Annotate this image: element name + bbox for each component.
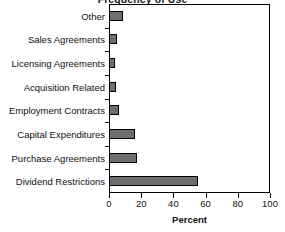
x-axis-tick-label: 40 <box>168 198 179 209</box>
bar <box>109 153 270 163</box>
y-axis-label: Employment Contracts <box>0 105 105 116</box>
bar-series <box>109 4 270 193</box>
bar-fill <box>109 34 117 44</box>
chart-figure: Frequency of Use OtherSales AgreementsLi… <box>0 0 285 232</box>
x-axis-tick-label: 60 <box>200 198 211 209</box>
y-axis-label: Dividend Restrictions <box>0 176 105 187</box>
y-axis-label: Capital Expenditures <box>0 128 105 139</box>
x-axis-tick-labels: 020406080100 <box>109 198 270 212</box>
x-axis-tick-label: 20 <box>136 198 147 209</box>
x-axis-tick-label: 80 <box>233 198 244 209</box>
bar <box>109 176 270 186</box>
bar <box>109 129 270 139</box>
y-axis-label: Licensing Agreements <box>0 58 105 69</box>
x-axis-title: Percent <box>109 214 270 225</box>
bar <box>109 82 270 92</box>
bar-fill <box>109 153 137 163</box>
y-axis-label: Acquisition Related <box>0 81 105 92</box>
bar-fill <box>109 11 123 21</box>
y-axis-label: Sales Agreements <box>0 34 105 45</box>
y-axis-label: Purchase Agreements <box>0 152 105 163</box>
y-axis-category-labels: OtherSales AgreementsLicensing Agreement… <box>0 4 105 193</box>
bar-fill <box>109 129 135 139</box>
bar <box>109 11 270 21</box>
bar <box>109 58 270 68</box>
bar <box>109 105 270 115</box>
x-axis-tick-label: 0 <box>106 198 111 209</box>
bar-fill <box>109 58 115 68</box>
x-axis-tick-label: 100 <box>262 198 278 209</box>
y-axis-label: Other <box>0 10 105 21</box>
bar <box>109 34 270 44</box>
bar-fill <box>109 105 119 115</box>
bar-fill <box>109 176 198 186</box>
bar-fill <box>109 82 116 92</box>
